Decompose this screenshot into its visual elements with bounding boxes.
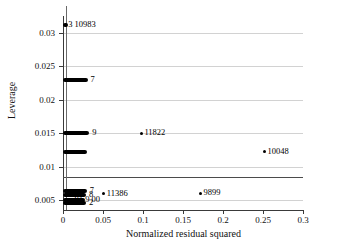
x-tick-label: 0.3 [283,215,323,225]
y-tick-label: 0.005 [0,195,55,205]
x-tick-label: 0.2 [203,215,243,225]
point-cluster [63,78,88,82]
point-cluster [63,150,87,154]
point-label-overprinted: 9 [92,128,96,137]
x-tick [303,210,304,214]
x-tick-label: 0.25 [243,215,283,225]
x-tick [223,210,224,214]
point-label-overprinted: 7 [91,75,95,84]
point-label-overprinted: 2 [89,198,93,207]
data-point [102,192,105,195]
x-tick-label: 0 [43,215,83,225]
y-tick-label: 0.03 [0,28,55,38]
data-point [199,192,202,195]
data-point [263,150,266,153]
y-tick-label: 0.01 [0,162,55,172]
point-label-overprinted: 3 10983 [68,20,96,29]
x-tick-label: 0.15 [163,215,203,225]
x-axis-title: Normalized residual squared [63,228,304,239]
x-tick [63,210,64,214]
point-label-overprinted: 01 9 00 [75,195,101,204]
point-label: 9899 [204,188,221,197]
x-tick-label: 0.05 [83,215,123,225]
point-label: 10048 [268,147,289,156]
data-point [140,132,143,135]
point-label: 11822 [144,128,165,137]
plot-area: 11822100489899113863 10983797801 9 002 [63,16,303,210]
mean-residual-reference-line [66,6,67,210]
point-cluster [63,131,89,135]
x-tick-label: 0.1 [123,215,163,225]
y-axis-title: Leverage [6,63,17,139]
x-tick [143,210,144,214]
x-tick [103,210,104,214]
x-tick [183,210,184,214]
x-tick [263,210,264,214]
mean-leverage-reference-line [63,177,303,178]
chart-container: 00.050.10.150.20.250.3 0.0050.010.0150.0… [0,0,352,252]
point-label: 11386 [107,189,128,198]
